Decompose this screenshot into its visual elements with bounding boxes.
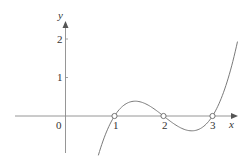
open-point-3	[210, 113, 215, 118]
cubic-curve	[98, 42, 237, 156]
y-axis-label: y	[57, 9, 63, 21]
x-tick-label-2: 2	[162, 119, 168, 131]
y-tick-label-1: 1	[57, 71, 63, 83]
y-tick-label-2: 2	[57, 33, 63, 45]
y-axis-arrow-icon	[63, 21, 69, 28]
open-point-1	[112, 113, 117, 118]
x-tick-label-3: 3	[210, 119, 216, 131]
cubic-plot: y 2 1 0 1 2 3 x	[0, 0, 249, 163]
x-tick-label-1: 1	[113, 119, 119, 131]
x-axis-label: x	[228, 118, 234, 130]
origin-label: 0	[56, 119, 62, 131]
open-point-2	[161, 113, 166, 118]
